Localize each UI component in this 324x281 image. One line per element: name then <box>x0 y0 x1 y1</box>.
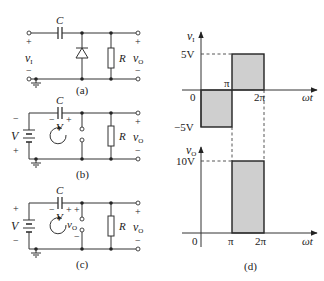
waveform-output: vO 10V 0 π 2π ωt <box>176 143 317 247</box>
circuit-a: C R + − vI + − vO (a) <box>25 14 143 97</box>
svg-text:+: + <box>26 36 32 47</box>
resistor-label: R <box>118 52 126 64</box>
source-voltage-label: V <box>11 129 20 143</box>
svg-text:vO: vO <box>133 220 143 235</box>
capacitor-symbol <box>58 27 62 39</box>
caption-d: (d) <box>244 260 257 273</box>
svg-text:−: − <box>135 145 141 156</box>
svg-text:+: + <box>135 206 141 217</box>
diode-symbol <box>76 48 88 58</box>
negative-half-cycle <box>201 90 232 127</box>
svg-text:−: − <box>74 231 80 242</box>
output-pulse <box>232 161 264 233</box>
circuit-b: C − + V − V + R + <box>11 94 143 181</box>
svg-text:−5V: −5V <box>174 121 194 133</box>
svg-text:+: + <box>13 203 19 214</box>
svg-text:+: + <box>135 116 141 127</box>
svg-text:−: − <box>13 113 19 124</box>
battery-symbol <box>23 130 35 142</box>
caption-b: (b) <box>76 168 89 181</box>
capacitor-label: C <box>56 14 64 26</box>
svg-text:vI: vI <box>187 29 195 44</box>
clamper-circuit-figure: C R + − vI + − vO (a) <box>0 0 324 281</box>
resistor-symbol <box>108 48 114 68</box>
caption-c: (c) <box>76 258 89 271</box>
svg-text:ωt: ωt <box>302 235 314 247</box>
svg-text:+: + <box>13 145 19 156</box>
svg-text:−: − <box>135 65 141 76</box>
svg-text:C: C <box>56 94 64 106</box>
caption-a: (a) <box>76 84 89 97</box>
svg-text:V: V <box>11 219 20 233</box>
svg-text:V: V <box>56 211 64 223</box>
svg-text:π: π <box>224 77 230 89</box>
svg-text:−: − <box>26 65 32 76</box>
svg-text:vO: vO <box>133 130 143 145</box>
ground-symbol <box>31 79 41 87</box>
svg-text:10V: 10V <box>176 155 195 167</box>
svg-text:ωt: ωt <box>302 91 314 103</box>
circuit-c: C − + V + V − + vO − R + − <box>11 184 143 271</box>
svg-text:C: C <box>56 184 64 196</box>
svg-text:+: + <box>66 204 72 215</box>
svg-text:π: π <box>228 235 234 247</box>
svg-text:+: + <box>66 114 72 125</box>
svg-text:−: − <box>49 114 55 125</box>
svg-text:+: + <box>74 204 80 215</box>
output-voltage-label: vO <box>133 51 143 66</box>
svg-text:2π: 2π <box>255 235 267 247</box>
svg-text:R: R <box>118 130 126 142</box>
svg-text:−: − <box>13 235 19 246</box>
svg-text:0: 0 <box>192 235 198 247</box>
svg-text:R: R <box>118 220 126 232</box>
svg-text:5V: 5V <box>181 48 195 60</box>
svg-text:−: − <box>49 204 55 215</box>
svg-text:+: + <box>135 36 141 47</box>
svg-text:−: − <box>135 235 141 246</box>
svg-text:0: 0 <box>190 91 196 103</box>
svg-text:V: V <box>56 121 64 133</box>
waveform-input: vI 5V −5V 0 π 2π ωt <box>174 29 317 133</box>
input-voltage-label: vI <box>25 51 33 66</box>
diode-voltage-label: vO <box>67 218 77 232</box>
positive-half-cycle <box>232 54 264 90</box>
